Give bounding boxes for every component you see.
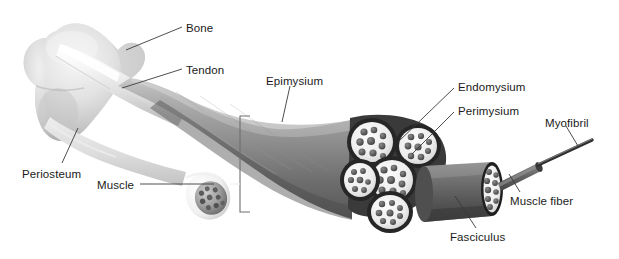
label-myofibril: Myofibril [545, 118, 589, 130]
muscle-belly [118, 78, 352, 220]
label-perimysium: Perimysium [458, 106, 519, 118]
label-bone: Bone [186, 23, 213, 35]
anatomy-diagram: Bone Tendon Epimysium Endomysium Perimys… [0, 0, 619, 259]
label-muscle: Muscle [97, 180, 134, 192]
diagram-artwork [0, 0, 619, 259]
label-periosteum: Periosteum [22, 169, 81, 181]
label-muscle-fiber: Muscle fiber [510, 196, 573, 208]
label-fasciculus: Fasciculus [450, 232, 505, 244]
label-tendon: Tendon [186, 65, 224, 77]
myofibril-rod [538, 139, 592, 165]
fascicle [367, 191, 413, 233]
fascicle [340, 159, 380, 201]
label-endomysium: Endomysium [458, 82, 525, 94]
label-epimysium: Epimysium [266, 76, 323, 88]
muscle-cut [179, 166, 238, 227]
fasciculus-tube [415, 162, 503, 222]
